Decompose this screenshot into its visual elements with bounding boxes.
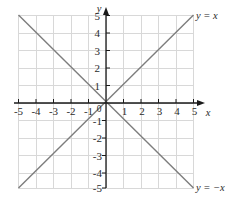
y-tick-label: 3 [95, 45, 101, 57]
x-tick-label: 1 [122, 105, 128, 117]
x-tick-label: 5 [192, 105, 198, 117]
y-tick-label: -2 [93, 132, 102, 144]
y-axis-label: y [96, 3, 102, 14]
line-label-y-equals-negative-x: y = −x [195, 182, 225, 193]
origin-label: 0 [97, 104, 102, 114]
x-tick-label: -3 [49, 105, 59, 117]
line-label-y-equals-x: y = x [195, 10, 218, 21]
y-tick-label: 2 [95, 62, 101, 74]
x-tick-label: -2 [66, 105, 75, 117]
x-tick-label: 2 [139, 105, 145, 117]
y-axis-arrow-icon [103, 7, 109, 15]
x-tick-label: 4 [174, 105, 180, 117]
y-tick-label: 4 [95, 27, 101, 39]
x-tick-label: -1 [84, 105, 93, 117]
x-tick-label: -4 [31, 105, 41, 117]
x-axis-label: x [205, 107, 211, 118]
coordinate-plane-svg: -5 -4 -3 -2 -1 1 2 3 4 5 5 4 3 2 1 -1 -2… [0, 0, 231, 201]
y-tick-label: -1 [93, 115, 102, 127]
x-tick-label: 3 [157, 105, 163, 117]
x-axis-arrow-icon [197, 100, 205, 106]
y-tick-label: -3 [93, 150, 103, 162]
x-tick-label: -5 [14, 105, 24, 117]
coordinate-plane-figure: -5 -4 -3 -2 -1 1 2 3 4 5 5 4 3 2 1 -1 -2… [0, 0, 231, 201]
y-tick-label: -4 [93, 167, 103, 179]
y-tick-label: 1 [95, 80, 101, 92]
y-tick-label: -5 [93, 182, 103, 194]
